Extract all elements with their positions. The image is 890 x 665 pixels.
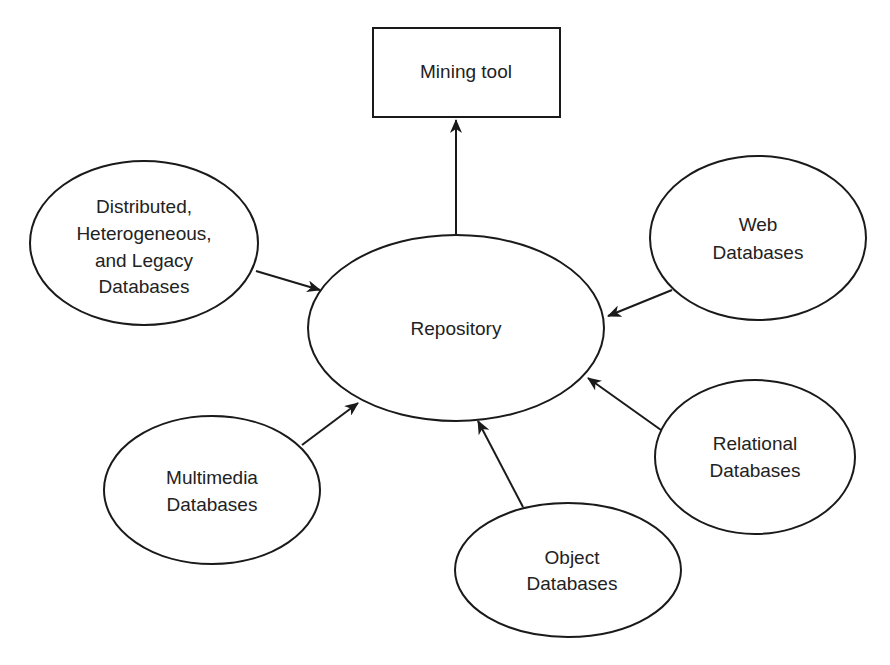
web-label-line-2: Databases xyxy=(713,242,804,263)
edge-distributed-to-repository xyxy=(256,271,320,290)
node-repository[interactable]: Repository xyxy=(308,235,604,421)
relational-label-line-2: Databases xyxy=(710,460,801,481)
distributed-label-line-2: Heterogeneous, xyxy=(76,223,211,244)
object-label-line-2: Databases xyxy=(527,573,618,594)
web-label-line-1: Web xyxy=(739,214,778,235)
edge-multimedia-to-repository xyxy=(302,403,358,445)
node-web-databases[interactable]: Web Databases xyxy=(650,156,866,320)
edge-object-to-repository xyxy=(478,421,523,507)
node-relational-databases[interactable]: Relational Databases xyxy=(655,380,855,534)
edge-relational-to-repository xyxy=(588,378,661,430)
repository-label: Repository xyxy=(411,318,502,339)
mining-tool-label: Mining tool xyxy=(420,61,512,82)
relational-ellipse xyxy=(655,380,855,534)
multimedia-ellipse xyxy=(104,416,320,564)
data-mining-diagram: Mining tool Repository Distributed, Hete… xyxy=(0,0,890,665)
relational-label-line-1: Relational xyxy=(713,433,798,454)
distributed-label-line-4: Databases xyxy=(99,276,190,297)
object-label-line-1: Object xyxy=(545,547,601,568)
edge-web-to-repository xyxy=(608,290,672,316)
object-ellipse xyxy=(455,503,681,637)
multimedia-label-line-1: Multimedia xyxy=(166,467,258,488)
node-object-databases[interactable]: Object Databases xyxy=(455,503,681,637)
distributed-label-line-1: Distributed, xyxy=(96,196,192,217)
node-mining-tool[interactable]: Mining tool xyxy=(373,28,560,117)
distributed-label-line-3: and Legacy xyxy=(95,250,194,271)
multimedia-label-line-2: Databases xyxy=(167,494,258,515)
web-ellipse xyxy=(650,156,866,320)
node-multimedia-databases[interactable]: Multimedia Databases xyxy=(104,416,320,564)
node-distributed-databases[interactable]: Distributed, Heterogeneous, and Legacy D… xyxy=(30,161,258,325)
